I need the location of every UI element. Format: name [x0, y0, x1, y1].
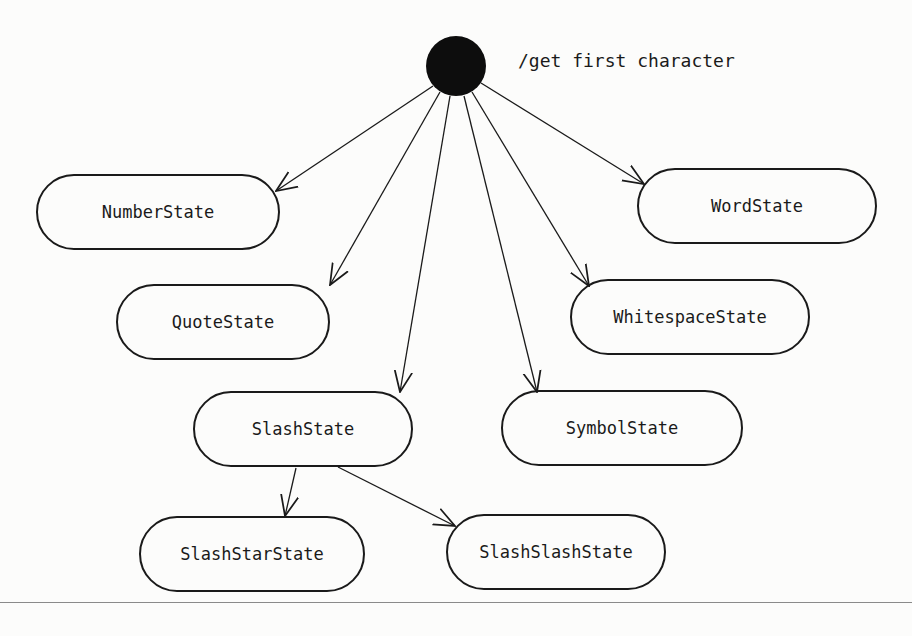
state-label: SymbolState [566, 418, 679, 438]
state-slashslash[interactable]: SlashSlashState [446, 514, 666, 590]
initial-transition-label: /get first character [518, 50, 735, 71]
state-symbol[interactable]: SymbolState [501, 390, 743, 466]
state-label: SlashState [252, 419, 354, 439]
state-label: QuoteState [172, 312, 274, 332]
state-number[interactable]: NumberState [36, 174, 280, 250]
state-label: WhitespaceState [613, 307, 767, 327]
state-slash[interactable]: SlashState [193, 391, 413, 467]
state-quote[interactable]: QuoteState [116, 284, 330, 360]
state-label: NumberState [102, 202, 215, 222]
arrow-to-slash [400, 96, 450, 392]
arrow-to-number [276, 86, 433, 191]
initial-state-dot [426, 36, 486, 96]
state-label: SlashStarState [180, 544, 323, 564]
arrow-to-slashstar [285, 468, 296, 516]
arrow-to-whitespace [472, 92, 589, 286]
state-label: WordState [711, 196, 803, 216]
state-word[interactable]: WordState [637, 168, 877, 244]
state-slashstar[interactable]: SlashStarState [139, 516, 365, 592]
arrow-to-word [481, 83, 644, 184]
state-label: SlashSlashState [479, 542, 633, 562]
page-divider [0, 602, 912, 603]
state-whitespace[interactable]: WhitespaceState [570, 279, 810, 355]
arrow-to-slashslash [338, 467, 455, 526]
